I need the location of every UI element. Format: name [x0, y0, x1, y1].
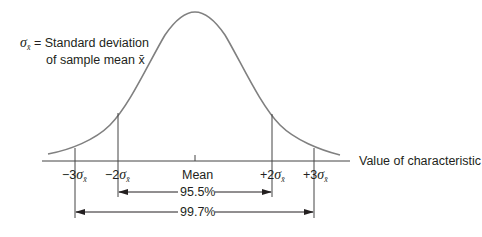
legend-line-2: of sample mean x̄	[46, 54, 145, 67]
range-95-label: 95.5%	[180, 186, 215, 199]
axis-label: Value of characteristic	[359, 155, 481, 168]
bell-curve	[48, 12, 340, 155]
tick-minus-2-sigma: −2σx̄	[105, 168, 130, 182]
tick-plus-2-sigma: +2σx̄	[260, 168, 285, 182]
range-997-label: 99.7%	[180, 206, 215, 219]
tick-mean: Mean	[182, 169, 213, 182]
tick-plus-3-sigma: +3σx̄	[303, 168, 328, 182]
tick-minus-3-sigma: −3σx̄	[62, 168, 87, 182]
legend-line-1: σx̄ = Standard deviation	[20, 36, 149, 50]
